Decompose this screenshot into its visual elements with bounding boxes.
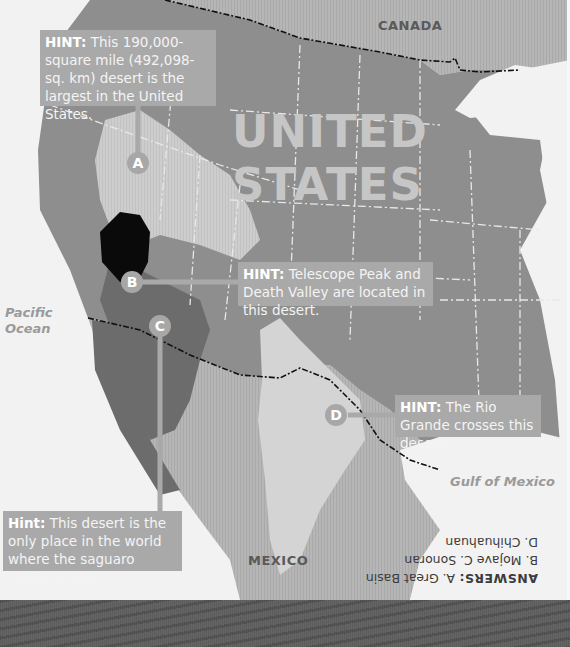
marker-d: D (325, 404, 347, 426)
hint-box-c: Hint: This desert is the only place in t… (3, 511, 182, 571)
hint-box-a: HINT: This 190,000-square mile (492,098-… (40, 30, 216, 106)
pacific-ocean-label: Pacific Ocean (5, 305, 53, 337)
gulf-of-mexico-label: Gulf of Mexico (450, 474, 555, 490)
marker-a: A (127, 152, 149, 174)
hint-box-d: HINT: The Rio Grande crosses this desert… (395, 395, 541, 437)
mexico-label: MEXICO (248, 553, 308, 568)
us-title-overlay: UNITED STATES (232, 105, 570, 211)
bottom-photo-band (0, 600, 570, 647)
canada-label: CANADA (378, 18, 442, 33)
marker-b: B (121, 271, 143, 293)
hint-box-b: HINT: Telescope Peak and Death Valley ar… (238, 262, 433, 306)
answers-upside-down: ANSWERS: A. Great Basin B. Mojave C. Son… (320, 533, 538, 587)
marker-c: C (149, 315, 171, 337)
